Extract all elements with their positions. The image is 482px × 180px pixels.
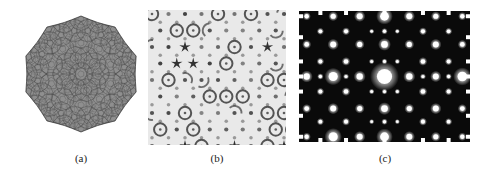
diffraction-spot (383, 30, 386, 33)
diffraction-spot (447, 75, 450, 78)
diffraction-spot (370, 120, 373, 123)
panel-b-svg (148, 10, 286, 145)
diffraction-spot (447, 120, 451, 124)
diffraction-spot (318, 90, 322, 94)
tile-edge (87, 15, 92, 17)
diffraction-spot (370, 90, 373, 93)
diffraction-spot (396, 120, 399, 123)
tile-edge (22, 63, 24, 68)
diffraction-spot (396, 60, 399, 63)
diffraction-spot (447, 29, 451, 33)
tile-edge (20, 78, 21, 81)
micrograph-wash (148, 10, 286, 145)
tile-edge (67, 12, 70, 16)
tile-edge (130, 34, 134, 37)
diffraction-spot (421, 89, 426, 94)
tile-edge (139, 85, 142, 88)
edge-tick (447, 138, 451, 142)
tile-edge (20, 67, 21, 70)
tile-edge (131, 101, 135, 103)
diffraction-spot (357, 42, 362, 47)
diffraction-spot (396, 30, 399, 33)
edge-tick (466, 59, 470, 63)
diffraction-spot (357, 13, 363, 19)
diffraction-spot (406, 13, 412, 19)
tile-edge (34, 30, 35, 35)
panel-c-svg (299, 11, 470, 142)
edge-tick (299, 114, 303, 118)
tile-edge (92, 12, 95, 16)
diffraction-spot (304, 106, 309, 111)
diffraction-spot (304, 42, 309, 47)
tile-edge (53, 128, 58, 129)
diffraction-spot (447, 90, 451, 94)
diffraction-spot (406, 134, 412, 140)
tile-edge (141, 67, 142, 70)
diffraction-spot (318, 59, 322, 63)
diffraction-spot (330, 106, 336, 112)
diffraction-spot (381, 105, 388, 112)
tile-edge (37, 27, 42, 28)
tile-edge (20, 85, 23, 88)
edge-tick (318, 138, 322, 142)
diffraction-spot (304, 135, 308, 139)
diffraction-spot (357, 73, 363, 79)
diffraction-spot (460, 42, 465, 47)
panel-c-caption: (c) (355, 152, 415, 164)
edge-tick (447, 11, 451, 15)
panel-c-diffraction-pattern (299, 11, 470, 142)
diffraction-spot (383, 120, 386, 123)
tile-edge (108, 124, 110, 128)
panel-a-svg (20, 10, 142, 140)
tile-edge (25, 40, 30, 41)
diffraction-spot (421, 120, 425, 124)
tile-edge (139, 60, 142, 63)
diffraction-spot (460, 14, 464, 18)
panel-b-caption: (b) (187, 152, 247, 164)
diffraction-spot (370, 30, 373, 33)
tile-edge (114, 125, 115, 130)
tile-edge (127, 30, 128, 35)
edge-tick (299, 90, 303, 94)
tile-edge (57, 13, 60, 17)
tile-edge (26, 97, 27, 102)
diffraction-spot (383, 60, 386, 63)
edge-tick (466, 75, 470, 79)
diffraction-spot (421, 29, 425, 33)
diffraction-spot (433, 106, 439, 112)
diffraction-spot (331, 14, 336, 19)
edge-tick (299, 75, 303, 79)
diffraction-spot (433, 74, 439, 80)
tile-edge (132, 107, 137, 108)
tile-edge (138, 95, 142, 98)
tile-edge (138, 80, 140, 85)
tile-edge (130, 111, 134, 114)
tile-edge (108, 19, 110, 23)
tile-edge (102, 13, 105, 17)
tile-edge (85, 134, 88, 138)
tile-edge (28, 111, 32, 114)
tile-edge (52, 19, 54, 23)
diffraction-spot (383, 90, 386, 93)
diffraction-spot (377, 69, 392, 84)
tile-edge (141, 78, 142, 81)
tile-edge (131, 45, 135, 47)
tile-edge (74, 10, 77, 14)
tile-edge (92, 132, 95, 136)
tile-edge (26, 45, 30, 47)
edge-tick (383, 138, 387, 142)
tile-edge (87, 131, 92, 133)
diffraction-spot (381, 41, 388, 48)
tile-edge (53, 19, 58, 20)
tile-edge (57, 131, 60, 135)
tile-edge (121, 112, 123, 117)
diffraction-spot (447, 59, 451, 63)
tile-edge (47, 18, 48, 23)
tile-edge (20, 50, 24, 53)
tile-edge (26, 46, 27, 51)
diffraction-spot (357, 134, 363, 140)
diffraction-spot (407, 42, 412, 47)
tile-edge (70, 131, 75, 133)
diffraction-spot (421, 75, 424, 78)
edge-tick (299, 14, 303, 18)
